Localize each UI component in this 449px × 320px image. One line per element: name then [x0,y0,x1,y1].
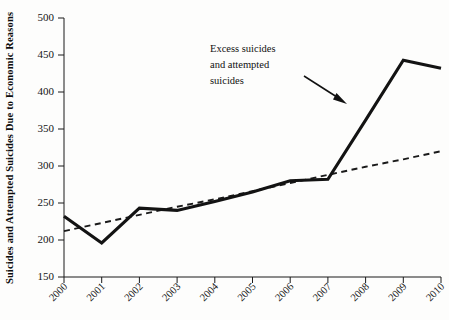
y-tick-label-450: 450 [38,48,55,60]
annotation-line-2: and attempted [210,59,270,70]
y-axis-title: Suicides and Attempted Suicides Due to E… [4,12,15,284]
y-tick-label-200: 200 [38,233,55,245]
y-tick-label-500: 500 [38,11,55,23]
line-chart: 500 450 400 350 300 250 200 150 2000 200… [0,0,449,320]
annotation-line-1: Excess suicides [210,43,276,54]
chart-figure: 500 450 400 350 300 250 200 150 2000 200… [0,0,449,320]
y-tick-label-250: 250 [38,196,55,208]
y-tick-label-400: 400 [38,85,55,97]
y-tick-label-150: 150 [38,270,55,282]
y-tick-label-300: 300 [38,159,55,171]
y-tick-label-350: 350 [38,122,55,134]
annotation-line-3: suicides [210,75,244,86]
